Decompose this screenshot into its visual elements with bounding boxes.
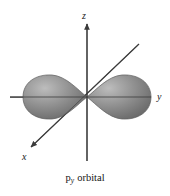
p-orbital-figure: z y x py orbital [0,0,170,196]
y-axis-label: y [157,92,161,102]
z-axis-label: z [82,11,86,21]
caption-symbol: p [65,172,70,183]
caption-text: orbital [77,172,104,183]
figure-caption: py orbital [0,172,170,185]
orbital-diagram-svg [0,0,170,196]
x-axis-label: x [22,152,26,162]
caption-subscript: y [71,176,75,185]
